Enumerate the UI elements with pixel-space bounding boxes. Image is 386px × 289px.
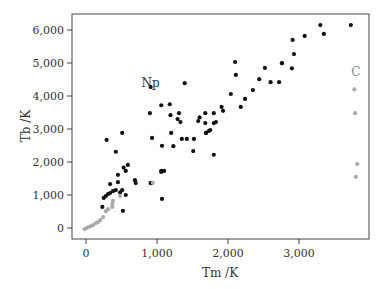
data-point — [101, 215, 105, 219]
data-point — [159, 170, 163, 174]
y-tick-label: 3,000 — [33, 123, 65, 136]
data-point — [148, 111, 152, 115]
data-point — [322, 32, 326, 36]
data-point — [106, 207, 110, 211]
data-point — [234, 73, 238, 77]
y-axis-label: Tb /K — [19, 109, 33, 143]
data-point — [118, 190, 122, 194]
data-point — [183, 81, 187, 85]
data-point — [353, 111, 357, 115]
data-point — [177, 111, 181, 115]
data-point — [126, 163, 130, 167]
data-points — [82, 23, 359, 231]
data-point — [185, 137, 189, 141]
y-tick-label: 4,000 — [33, 90, 65, 103]
data-point — [290, 66, 294, 70]
x-tick-label: 0 — [83, 247, 90, 260]
data-point — [303, 34, 307, 38]
data-point — [133, 178, 137, 182]
data-point — [191, 149, 195, 153]
data-point — [118, 194, 122, 198]
data-point — [243, 97, 247, 101]
data-point — [124, 193, 128, 197]
annotation-label: C — [351, 65, 360, 79]
x-axis-label: Tm /K — [202, 266, 239, 280]
data-point — [203, 121, 207, 125]
y-tick-label: 2,000 — [33, 156, 65, 169]
data-point — [180, 137, 184, 141]
data-point — [214, 120, 218, 124]
data-point — [168, 102, 172, 106]
data-point — [269, 80, 273, 84]
data-point — [198, 115, 202, 119]
data-point — [257, 77, 261, 81]
data-point — [108, 182, 112, 186]
data-point — [318, 23, 322, 27]
data-point — [171, 144, 175, 148]
data-point — [349, 23, 353, 27]
data-point — [168, 113, 172, 117]
data-point — [239, 105, 243, 109]
data-point — [229, 92, 233, 96]
data-point — [196, 119, 200, 123]
data-point — [212, 153, 216, 157]
data-point — [178, 120, 182, 124]
y-tick-label: 0 — [57, 222, 64, 235]
data-point — [204, 131, 208, 135]
data-point — [111, 199, 115, 203]
data-point — [159, 103, 163, 107]
data-point — [352, 87, 356, 91]
data-point — [120, 131, 124, 135]
data-point — [104, 138, 108, 142]
data-point — [355, 162, 359, 166]
data-point — [114, 150, 118, 154]
data-point — [203, 111, 207, 115]
x-axis-ticks: 01,0002,0003,000 — [83, 239, 315, 260]
data-point — [160, 144, 164, 148]
data-point — [160, 197, 164, 201]
data-point — [221, 109, 225, 113]
data-point — [121, 209, 125, 213]
annotations: NpC — [142, 65, 361, 90]
x-tick-label: 1,000 — [141, 247, 173, 260]
data-point — [263, 66, 267, 70]
data-point — [114, 188, 118, 192]
data-point — [280, 61, 284, 65]
data-point — [151, 181, 155, 185]
data-point — [116, 180, 120, 184]
data-point — [100, 205, 104, 209]
data-point — [212, 111, 216, 115]
y-tick-label: 5,000 — [33, 57, 65, 70]
data-point — [292, 52, 296, 56]
data-point — [251, 88, 255, 92]
data-point — [169, 131, 173, 135]
data-point — [354, 175, 358, 179]
data-point — [124, 169, 128, 173]
data-point — [150, 136, 154, 140]
y-axis-ticks: 01,0002,0003,0004,0005,0006,000 — [33, 24, 73, 235]
y-tick-label: 1,000 — [33, 189, 65, 202]
data-point — [192, 137, 196, 141]
annotation-label: Np — [142, 76, 161, 90]
data-point — [291, 38, 295, 42]
data-point — [220, 105, 224, 109]
data-point — [277, 80, 281, 84]
x-tick-label: 3,000 — [283, 247, 315, 260]
y-tick-label: 6,000 — [33, 24, 65, 37]
data-point — [116, 173, 120, 177]
data-point — [233, 60, 237, 64]
scatter-chart: 01,0002,0003,0004,0005,0006,000 01,0002,… — [0, 0, 386, 289]
x-tick-label: 2,000 — [212, 247, 244, 260]
plot-frame — [72, 14, 369, 239]
